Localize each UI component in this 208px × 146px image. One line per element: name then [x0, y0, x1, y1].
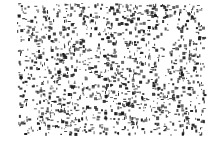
speckle-dot [87, 120, 88, 121]
speckle-dot [49, 71, 52, 74]
speckle-dot [202, 98, 204, 101]
speckle-dot [78, 86, 79, 88]
speckle-dot [118, 78, 120, 81]
speckle-dot [186, 111, 188, 112]
speckle-dot [185, 23, 187, 26]
speckle-dot [111, 7, 114, 10]
speckle-dot [116, 40, 117, 43]
speckle-dot [96, 92, 97, 93]
speckle-dot [30, 74, 32, 75]
speckle-dot [58, 75, 60, 76]
speckle-dot [127, 16, 129, 17]
speckle-dot [42, 5, 43, 8]
speckle-dot [184, 67, 186, 69]
speckle-dot [137, 126, 138, 129]
speckle-dot [164, 126, 167, 127]
speckle-dot [84, 50, 85, 52]
speckle-dot [18, 3, 21, 4]
speckle-dot [118, 93, 119, 96]
speckle-dot [198, 103, 200, 104]
speckle-dot [85, 60, 86, 61]
speckle-dot [26, 60, 29, 61]
speckle-dot [90, 50, 92, 51]
speckle-dot [61, 49, 63, 50]
speckle-dot [29, 35, 31, 36]
speckle-dot [23, 94, 25, 97]
speckle-dot [78, 120, 79, 122]
speckle-dot [84, 129, 86, 131]
speckle-dot [97, 93, 100, 94]
speckle-dot [112, 42, 114, 45]
speckle-dot [32, 78, 35, 80]
speckle-dot [178, 114, 180, 116]
speckle-dot [151, 109, 152, 112]
speckle-dot [38, 46, 41, 47]
speckle-dot [114, 32, 117, 33]
speckle-dot [61, 74, 62, 75]
speckle-dot [22, 18, 25, 19]
speckle-dot [132, 103, 133, 104]
speckle-dot [23, 11, 24, 13]
speckle-dot [161, 111, 164, 113]
speckle-dot [83, 93, 84, 94]
speckle-dot [189, 39, 192, 41]
speckle-dot [30, 57, 31, 59]
speckle-dot [137, 73, 138, 74]
speckle-dot [43, 11, 46, 14]
speckle-dot [97, 47, 100, 49]
speckle-dot [80, 69, 81, 70]
speckle-dot [77, 99, 79, 100]
speckle-dot [66, 53, 69, 54]
speckle-dot [128, 57, 129, 58]
speckle-dot [178, 102, 180, 104]
speckle-dot [101, 76, 103, 77]
speckle-dot [73, 28, 76, 29]
speckle-dot [170, 122, 172, 123]
speckle-dot [160, 5, 162, 7]
speckle-dot [98, 33, 101, 35]
speckle-dot [53, 33, 56, 36]
speckle-dot [131, 105, 134, 108]
speckle-dot [103, 18, 105, 19]
speckle-dot [25, 100, 28, 101]
speckle-dot [41, 39, 42, 41]
speckle-dot [125, 127, 126, 128]
speckle-dot [79, 47, 82, 48]
speckle-dot [127, 8, 128, 11]
speckle-dot [101, 38, 104, 40]
speckle-dot [70, 13, 72, 16]
speckle-dot [122, 129, 125, 130]
speckle-dot [19, 25, 21, 26]
speckle-dot [99, 32, 100, 33]
speckle-dot [105, 116, 107, 119]
speckle-dot [122, 68, 124, 70]
speckle-dot [19, 74, 20, 76]
speckle-dot [137, 41, 139, 43]
speckle-dot [193, 41, 194, 42]
speckle-dot [58, 77, 61, 80]
speckle-dot [42, 91, 45, 92]
speckle-dot [181, 104, 184, 107]
speckle-dot [167, 95, 168, 97]
speckle-dot [54, 38, 57, 41]
speckle-dot [66, 19, 67, 22]
speckle-dot [57, 58, 58, 59]
speckle-dot [164, 129, 165, 131]
speckle-dot [203, 120, 205, 123]
speckle-dot [83, 64, 86, 65]
speckle-dot [115, 131, 117, 133]
speckle-dot [21, 5, 23, 7]
speckle-dot [39, 101, 41, 104]
speckle-dot [32, 85, 35, 87]
speckle-dot [34, 108, 37, 109]
speckle-dot [200, 128, 201, 130]
speckle-dot [129, 69, 131, 72]
speckle-dot [37, 130, 38, 131]
speckle-dot [174, 130, 177, 131]
speckle-dot [113, 12, 116, 15]
speckle-dot [66, 75, 69, 78]
speckle-dot [112, 61, 115, 63]
speckle-dot [156, 36, 157, 37]
speckle-dot [143, 22, 146, 25]
speckle-dot [196, 71, 197, 73]
